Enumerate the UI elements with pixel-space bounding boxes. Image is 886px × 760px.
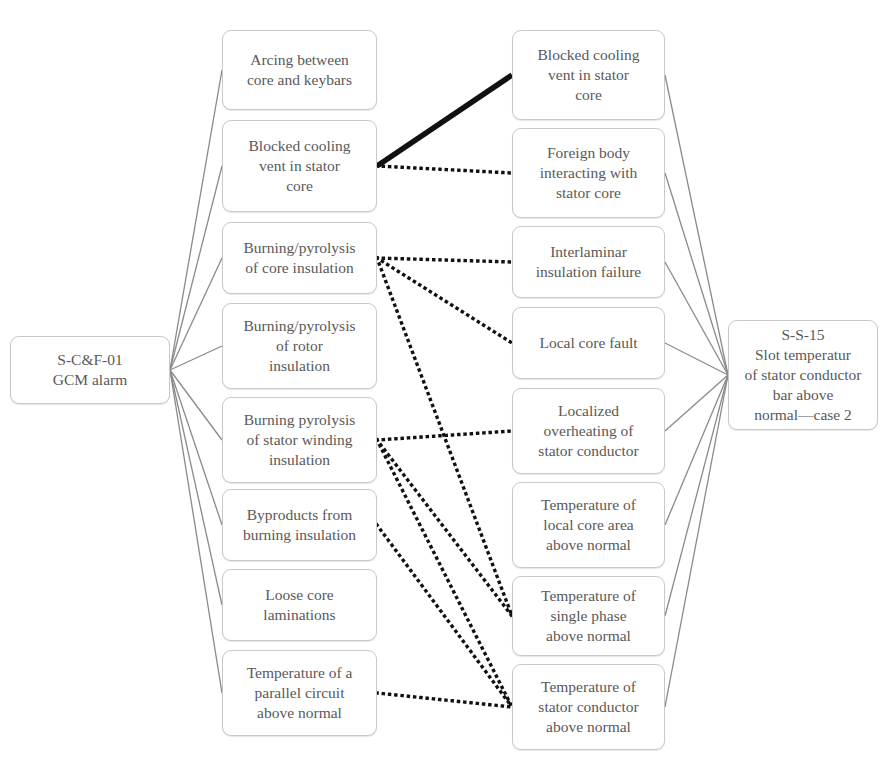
edge-dotted-l8-to-m8 [377, 693, 512, 707]
middle-node-8-label: Temperature of stator conductor above no… [518, 677, 659, 737]
edge-m2-to-target [665, 173, 728, 375]
left-node-2-label: Blocked cooling vent in stator core [228, 136, 371, 196]
left-node-6-label: Byproducts from burning insulation [228, 505, 371, 545]
diagram-canvas: S-C&F-01 GCM alarmS-S-15 Slot temperatur… [0, 0, 886, 760]
edge-m7-to-target [665, 375, 728, 616]
left-node-5-label: Burning pyrolysis of stator winding insu… [228, 410, 371, 470]
target-node-slot-temperature[interactable]: S-S-15 Slot temperatur of stator conduct… [728, 320, 878, 430]
edge-source-to-l3 [170, 258, 222, 370]
middle-node-3-label: Interlaminar insulation failure [518, 242, 659, 282]
left-node-6[interactable]: Byproducts from burning insulation [222, 489, 377, 561]
target-node-slot-temperature-label: S-S-15 Slot temperatur of stator conduct… [734, 325, 872, 426]
middle-node-1[interactable]: Blocked cooling vent in stator core [512, 30, 665, 120]
edge-source-to-l4 [170, 346, 222, 370]
middle-node-7-label: Temperature of single phase above normal [518, 586, 659, 646]
left-node-8-label: Temperature of a parallel circuit above … [228, 663, 371, 723]
middle-node-5-label: Localized overheating of stator conducto… [518, 401, 659, 461]
left-node-7[interactable]: Loose core laminations [222, 569, 377, 641]
left-node-4-label: Burning/pyrolysis of rotor insulation [228, 316, 371, 376]
edge-source-to-l6 [170, 370, 222, 525]
middle-node-6[interactable]: Temperature of local core area above nor… [512, 482, 665, 568]
edge-dotted-l6-to-m8 [377, 525, 512, 707]
edge-source-to-l2 [170, 166, 222, 370]
edge-dotted-l2-to-m2 [377, 166, 512, 173]
left-node-1[interactable]: Arcing between core and keybars [222, 30, 377, 110]
middle-node-1-label: Blocked cooling vent in stator core [518, 45, 659, 105]
edge-dotted-l5-to-m8 [377, 440, 512, 707]
edge-source-to-l8 [170, 370, 222, 693]
left-node-5[interactable]: Burning pyrolysis of stator winding insu… [222, 397, 377, 483]
edge-dotted-l3-to-m3 [377, 258, 512, 262]
edge-m1-to-target [665, 75, 728, 375]
left-node-2[interactable]: Blocked cooling vent in stator core [222, 120, 377, 212]
edge-m6-to-target [665, 375, 728, 525]
middle-node-8[interactable]: Temperature of stator conductor above no… [512, 664, 665, 750]
left-node-8[interactable]: Temperature of a parallel circuit above … [222, 650, 377, 736]
edge-dotted-l3-to-m4 [377, 258, 512, 343]
middle-node-2-label: Foreign body interacting with stator cor… [518, 143, 659, 203]
left-node-7-label: Loose core laminations [228, 585, 371, 625]
middle-node-7[interactable]: Temperature of single phase above normal [512, 576, 665, 656]
middle-node-2[interactable]: Foreign body interacting with stator cor… [512, 128, 665, 218]
edge-source-to-l1 [170, 70, 222, 370]
left-node-1-label: Arcing between core and keybars [228, 50, 371, 90]
source-node-gcm-alarm-label: S-C&F-01 GCM alarm [16, 350, 164, 390]
edge-m8-to-target [665, 375, 728, 707]
left-node-3[interactable]: Burning/pyrolysis of core insulation [222, 222, 377, 294]
middle-node-4[interactable]: Local core fault [512, 307, 665, 379]
edge-dotted-l5-to-m7 [377, 440, 512, 616]
edge-highlight-l2-to-m1 [377, 75, 512, 166]
source-node-gcm-alarm[interactable]: S-C&F-01 GCM alarm [10, 336, 170, 404]
left-node-4[interactable]: Burning/pyrolysis of rotor insulation [222, 303, 377, 389]
edge-m3-to-target [665, 262, 728, 375]
left-node-3-label: Burning/pyrolysis of core insulation [228, 238, 371, 278]
middle-node-3[interactable]: Interlaminar insulation failure [512, 226, 665, 298]
edge-dotted-l5-to-m5 [377, 431, 512, 440]
middle-node-5[interactable]: Localized overheating of stator conducto… [512, 388, 665, 474]
middle-node-4-label: Local core fault [518, 333, 659, 353]
middle-node-6-label: Temperature of local core area above nor… [518, 495, 659, 555]
